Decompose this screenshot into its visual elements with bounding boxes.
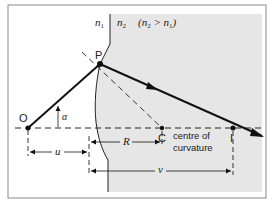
centre-caption-line2: curvature [173, 143, 213, 153]
refraction-diagram [0, 0, 280, 208]
point-p [97, 61, 103, 67]
label-p: P [95, 50, 102, 61]
label-c: C [158, 133, 166, 144]
point-o [26, 126, 31, 131]
label-r: R [123, 136, 130, 147]
label-v: v [158, 164, 163, 175]
label-alpha: α [62, 112, 67, 122]
refractive-index-condition: (n2 > n1) [138, 17, 176, 30]
n2-label: n2 [117, 17, 126, 30]
n1-label: n1 [95, 17, 104, 30]
label-i: I [230, 133, 233, 144]
medium-2-region [96, 14, 262, 192]
point-i [231, 126, 236, 131]
label-u: u [55, 146, 61, 157]
point-c [160, 126, 164, 130]
label-o: O [19, 113, 28, 124]
centre-caption-line1: centre of [173, 131, 210, 141]
